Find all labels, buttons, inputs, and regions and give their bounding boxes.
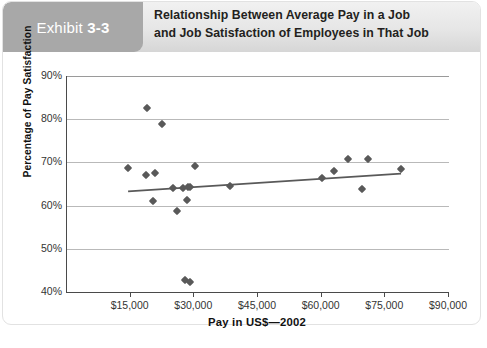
exhibit-word: Exhibit (36, 19, 82, 36)
x-tick-label: $60,000 (286, 299, 356, 311)
x-tick-mark (448, 292, 449, 297)
x-axis-title: Pay in US$—2002 (66, 316, 448, 328)
figure-title: Relationship Between Average Pay in a Jo… (154, 7, 474, 42)
y-tick-label: 50% (22, 242, 62, 254)
gridline (67, 76, 449, 77)
y-tick-label: 80% (22, 112, 62, 124)
figure-title-line-1: Relationship Between Average Pay in a Jo… (154, 7, 474, 25)
x-tick-mark (321, 292, 322, 297)
x-tick-label: $15,000 (95, 299, 165, 311)
x-tick-label: $75,000 (349, 299, 419, 311)
exhibit-number: 3-3 (87, 19, 109, 36)
exhibit-label: Exhibit 3-3 (36, 19, 109, 36)
x-tick-label: $90,000 (413, 299, 483, 311)
figure-title-line-2: and Job Satisfaction of Employees in Tha… (154, 25, 474, 43)
gridline (67, 162, 449, 163)
y-tick-label: 90% (22, 69, 62, 81)
gridline (67, 206, 449, 207)
figure-header: Exhibit 3-3 Relationship Between Average… (3, 2, 480, 52)
y-tick-label: 70% (22, 155, 62, 167)
plot-area (66, 76, 449, 293)
x-tick-mark (130, 292, 131, 297)
x-tick-label: $30,000 (158, 299, 228, 311)
x-tick-mark (193, 292, 194, 297)
trend-line (67, 76, 449, 292)
exhibit-figure: Exhibit 3-3 Relationship Between Average… (0, 0, 487, 348)
y-axis-title: Percentage of Pay Satisfaction (22, 2, 33, 202)
x-tick-mark (257, 292, 258, 297)
x-tick-mark (384, 292, 385, 297)
gridline (67, 119, 449, 120)
y-tick-label: 60% (22, 199, 62, 211)
y-tick-label: 40% (22, 285, 62, 297)
x-tick-label: $45,000 (222, 299, 292, 311)
gridline (67, 249, 449, 250)
